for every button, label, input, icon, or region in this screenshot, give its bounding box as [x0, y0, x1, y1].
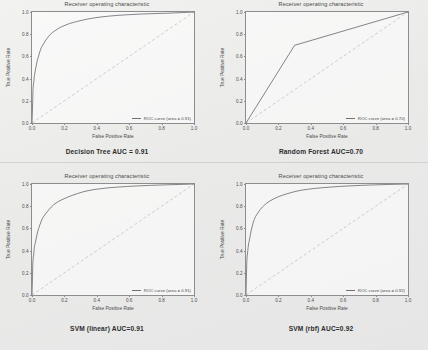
x-tick-label: 0.2 — [61, 298, 67, 303]
x-tick-label: 0.2 — [275, 126, 281, 131]
x-tick-label: 0.0 — [29, 126, 35, 131]
x-tick-label: 1.0 — [405, 298, 411, 303]
y-tick-label: 0.4 — [236, 76, 242, 81]
y-tick-label: 0.0 — [236, 293, 242, 298]
x-tick-label: 0.8 — [372, 298, 378, 303]
roc-plot-decision-tree — [32, 12, 194, 123]
y-tick-label: 0.8 — [22, 204, 28, 209]
figure-svm-linear: Receiver operating characteristic True P… — [0, 175, 214, 350]
legend: ROC curve (area = 0.91) — [130, 287, 193, 294]
x-tick-label: 0.6 — [126, 298, 132, 303]
legend-line-swatch — [346, 118, 355, 119]
panel-caption: Decision Tree AUC = 0.91 — [0, 148, 214, 155]
figure-title: Receiver operating characteristic — [0, 173, 214, 179]
panel-caption: SVM (linear) AUC=0.91 — [0, 325, 214, 332]
x-tick-label: 0.4 — [94, 126, 100, 131]
y-tick-label: 0.2 — [22, 98, 28, 103]
x-tick-label: 0.2 — [61, 126, 67, 131]
legend-line-swatch — [132, 290, 141, 291]
figure-svm-rbf: Receiver operating characteristic True P… — [214, 175, 428, 350]
roc-plot-random-forest — [246, 12, 408, 123]
legend-label: ROC curve (area = 0.70) — [358, 116, 405, 121]
panel-decision-tree: Receiver operating characteristic True P… — [0, 0, 214, 175]
chance-diagonal-line — [246, 12, 408, 123]
y-tick-label: 0.2 — [22, 270, 28, 275]
y-tick-label: 1.0 — [22, 182, 28, 187]
x-axis-label: False Positive Rate — [31, 134, 195, 139]
roc-plot-svm-rbf — [246, 184, 408, 295]
panel-random-forest: Receiver operating characteristic True P… — [214, 0, 428, 175]
chance-diagonal-line — [32, 12, 194, 123]
panel-svm-rbf: Receiver operating characteristic True P… — [214, 175, 428, 350]
x-tick-label: 0.2 — [275, 298, 281, 303]
x-tick-label: 1.0 — [405, 126, 411, 131]
scanned-figure-sheet: Receiver operating characteristic True P… — [0, 0, 428, 350]
roc-panel-grid: Receiver operating characteristic True P… — [0, 0, 428, 350]
y-tick-label: 0.4 — [236, 248, 242, 253]
legend-line-swatch — [132, 118, 141, 119]
y-axis-label: True Positive Rate — [5, 11, 13, 124]
x-axis-label: False Positive Rate — [245, 134, 409, 139]
legend: ROC curve (area = 0.92) — [344, 287, 407, 294]
figure-decision-tree: Receiver operating characteristic True P… — [0, 0, 214, 175]
legend: ROC curve (area = 0.91) — [130, 115, 193, 122]
y-tick-label: 1.0 — [236, 182, 242, 187]
y-axis-label: True Positive Rate — [5, 183, 13, 296]
legend: ROC curve (area = 0.70) — [344, 115, 407, 122]
x-tick-label: 0.6 — [126, 126, 132, 131]
chance-diagonal-line — [32, 184, 194, 295]
y-tick-label: 0.6 — [236, 226, 242, 231]
y-tick-label: 0.6 — [22, 54, 28, 59]
figure-title: Receiver operating characteristic — [214, 1, 428, 7]
y-tick-label: 0.4 — [22, 248, 28, 253]
x-tick-label: 0.4 — [308, 298, 314, 303]
x-tick-label: 0.0 — [29, 298, 35, 303]
x-tick-label: 0.8 — [372, 126, 378, 131]
legend-label: ROC curve (area = 0.92) — [358, 288, 405, 293]
y-tick-label: 0.8 — [22, 32, 28, 37]
y-tick-label: 0.8 — [236, 204, 242, 209]
legend-label: ROC curve (area = 0.91) — [144, 116, 191, 121]
legend-line-swatch — [346, 290, 355, 291]
x-tick-label: 0.0 — [243, 126, 249, 131]
panel-caption: Random Forest AUC=0.70 — [214, 148, 428, 155]
y-tick-label: 0.0 — [236, 121, 242, 126]
y-tick-label: 0.0 — [22, 121, 28, 126]
plot-area: 0.0 0.2 0.4 0.6 0.8 1.0 0.0 0.2 0.4 0.6 … — [245, 11, 409, 124]
plot-area: 0.0 0.2 0.4 0.6 0.8 1.0 0.0 0.2 0.4 0.6 … — [31, 183, 195, 296]
panel-svm-linear: Receiver operating characteristic True P… — [0, 175, 214, 350]
x-tick-label: 0.8 — [158, 298, 164, 303]
legend-label: ROC curve (area = 0.91) — [144, 288, 191, 293]
y-tick-label: 0.0 — [22, 293, 28, 298]
x-tick-label: 0.4 — [308, 126, 314, 131]
panel-caption: SVM (rbf) AUC=0.92 — [214, 325, 428, 332]
x-tick-label: 0.4 — [94, 298, 100, 303]
x-tick-label: 0.6 — [340, 298, 346, 303]
plot-area: 0.0 0.2 0.4 0.6 0.8 1.0 0.0 0.2 0.4 0.6 … — [31, 11, 195, 124]
y-axis-label: True Positive Rate — [219, 183, 227, 296]
y-tick-label: 1.0 — [22, 10, 28, 15]
y-tick-label: 0.6 — [22, 226, 28, 231]
y-tick-label: 0.4 — [22, 76, 28, 81]
y-tick-label: 0.8 — [236, 32, 242, 37]
figure-title: Receiver operating characteristic — [0, 1, 214, 7]
roc-plot-svm-linear — [32, 184, 194, 295]
x-tick-label: 1.0 — [191, 126, 197, 131]
y-tick-label: 0.6 — [236, 54, 242, 59]
y-tick-label: 0.2 — [236, 270, 242, 275]
y-axis-label: True Positive Rate — [219, 11, 227, 124]
x-axis-label: False Positive Rate — [31, 306, 195, 311]
x-tick-label: 0.6 — [340, 126, 346, 131]
figure-title: Receiver operating characteristic — [214, 173, 428, 179]
x-tick-label: 0.8 — [158, 126, 164, 131]
x-tick-label: 1.0 — [191, 298, 197, 303]
x-tick-label: 0.0 — [243, 298, 249, 303]
y-tick-label: 0.2 — [236, 98, 242, 103]
figure-random-forest: Receiver operating characteristic True P… — [214, 0, 428, 175]
y-tick-label: 1.0 — [236, 10, 242, 15]
x-axis-label: False Positive Rate — [245, 306, 409, 311]
plot-area: 0.0 0.2 0.4 0.6 0.8 1.0 0.0 0.2 0.4 0.6 … — [245, 183, 409, 296]
